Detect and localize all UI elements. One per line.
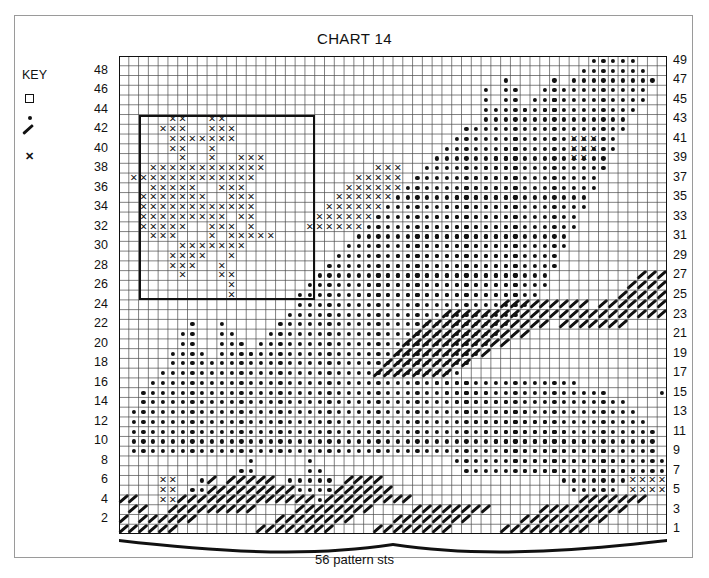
- rust-dot-cell: [256, 417, 266, 427]
- rust-dot-cell: [373, 427, 383, 437]
- rust-dot-cell: [422, 173, 432, 183]
- rust-dot-cell: [403, 261, 413, 271]
- rust-dot-cell: [207, 436, 217, 446]
- rust-dot-cell: [501, 271, 511, 281]
- rust-dot-cell: [373, 349, 383, 359]
- rust-dot-cell: [373, 271, 383, 281]
- rust-dot-cell: [501, 280, 511, 290]
- rust-dot-cell: [618, 427, 628, 437]
- pattern-chart-grid[interactable]: ✕✕✕✕✕✕✕✕✕✕✕✕✕✕✕✕✕✕✕✕✕✕✕✕✕✕✕✕✕✕✕✕✕✕✕✕✕✕✕✕…: [119, 56, 667, 534]
- green-cross-cell: ✕: [139, 222, 149, 232]
- rust-dot-cell: [246, 436, 256, 446]
- row-number-left-6: 6: [84, 474, 108, 485]
- brown-slash-cell: [432, 349, 442, 359]
- brown-slash-cell: [413, 349, 423, 359]
- rust-dot-cell: [481, 427, 491, 437]
- rust-dot-cell: [559, 388, 569, 398]
- rust-dot-cell: [422, 261, 432, 271]
- rust-dot-cell: [462, 222, 472, 232]
- rust-dot-cell: [227, 417, 237, 427]
- rust-dot-cell: [354, 368, 364, 378]
- rust-dot-cell: [383, 436, 393, 446]
- rust-dot-cell: [530, 232, 540, 242]
- brown-slash-cell: [403, 368, 413, 378]
- rust-dot-cell: [236, 368, 246, 378]
- rust-dot-cell: [334, 290, 344, 300]
- brown-slash-cell: [589, 319, 599, 329]
- rust-dot-cell: [432, 154, 442, 164]
- rust-dot-cell: [589, 154, 599, 164]
- rust-dot-cell: [452, 144, 462, 154]
- rust-dot-cell: [236, 446, 246, 456]
- brown-slash-cell: [491, 310, 501, 320]
- brown-slash-cell: [383, 495, 393, 505]
- brown-slash-cell: [608, 300, 618, 310]
- rust-dot-cell: [217, 378, 227, 388]
- rust-dot-cell: [599, 134, 609, 144]
- rust-dot-cell: [550, 202, 560, 212]
- brown-slash-cell: [344, 505, 354, 515]
- rust-dot-cell: [510, 115, 520, 125]
- rust-dot-cell: [520, 202, 530, 212]
- rust-dot-cell: [432, 310, 442, 320]
- rust-dot-cell: [373, 261, 383, 271]
- rust-dot-cell: [471, 417, 481, 427]
- rust-dot-cell: [315, 417, 325, 427]
- rust-dot-cell: [462, 280, 472, 290]
- rust-dot-cell: [334, 397, 344, 407]
- rust-dot-cell: [540, 397, 550, 407]
- rust-dot-cell: [530, 456, 540, 466]
- rust-dot-cell: [413, 183, 423, 193]
- rust-dot-cell: [599, 475, 609, 485]
- rust-dot-cell: [540, 232, 550, 242]
- rust-dot-cell: [471, 212, 481, 222]
- rust-dot-cell: [364, 310, 374, 320]
- rust-dot-cell: [236, 427, 246, 437]
- rust-dot-cell: [393, 310, 403, 320]
- rust-dot-cell: [481, 134, 491, 144]
- rust-dot-cell: [569, 95, 579, 105]
- rust-dot-cell: [550, 85, 560, 95]
- brown-slash-cell: [599, 514, 609, 524]
- rust-dot-cell: [383, 271, 393, 281]
- rust-dot-cell: [638, 456, 648, 466]
- rust-dot-cell: [393, 397, 403, 407]
- rust-dot-cell: [501, 212, 511, 222]
- row-number-left-40: 40: [84, 143, 108, 154]
- brown-slash-cell: [422, 524, 432, 534]
- rust-dot-cell: [530, 183, 540, 193]
- rust-dot-cell: [207, 417, 217, 427]
- rust-dot-cell: [413, 397, 423, 407]
- rust-dot-cell: [559, 85, 569, 95]
- rust-dot-cell: [452, 193, 462, 203]
- rust-dot-cell: [305, 475, 315, 485]
- rust-dot-cell: [491, 300, 501, 310]
- rust-dot-cell: [491, 115, 501, 125]
- rust-dot-cell: [481, 232, 491, 242]
- rust-dot-cell: [530, 427, 540, 437]
- rust-dot-cell: [452, 436, 462, 446]
- rust-dot-cell: [305, 407, 315, 417]
- brown-slash-cell: [158, 524, 168, 534]
- rust-dot-cell: [608, 417, 618, 427]
- rust-dot-cell: [129, 407, 139, 417]
- rust-dot-cell: [227, 378, 237, 388]
- rust-dot-cell: [520, 105, 530, 115]
- rust-dot-cell: [432, 446, 442, 456]
- rust-dot-cell: [364, 436, 374, 446]
- rust-dot-cell: [530, 144, 540, 154]
- rust-dot-cell: [344, 329, 354, 339]
- rust-dot-cell: [471, 397, 481, 407]
- rust-dot-cell: [246, 417, 256, 427]
- rust-dot-cell: [393, 212, 403, 222]
- row-number-right-45: 45: [673, 94, 697, 105]
- rust-dot-cell: [403, 241, 413, 251]
- row-number-right-19: 19: [673, 348, 697, 359]
- rust-dot-cell: [403, 397, 413, 407]
- rust-dot-cell: [481, 241, 491, 251]
- brown-slash-cell: [325, 505, 335, 515]
- rust-dot-cell: [373, 300, 383, 310]
- green-cross-cell: ✕: [168, 232, 178, 242]
- brown-slash-cell: [334, 514, 344, 524]
- rust-dot-cell: [510, 271, 520, 281]
